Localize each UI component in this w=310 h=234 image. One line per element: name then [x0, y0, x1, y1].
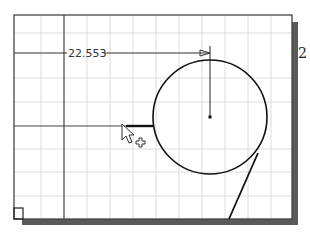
sketch-canvas[interactable]: 22.553 2	[0, 0, 310, 234]
dimension-value[interactable]: 22.553	[68, 47, 107, 60]
circle-center-point[interactable]	[209, 116, 212, 119]
side-label: 2	[298, 45, 307, 61]
canvas-shadow-bottom	[22, 219, 298, 225]
